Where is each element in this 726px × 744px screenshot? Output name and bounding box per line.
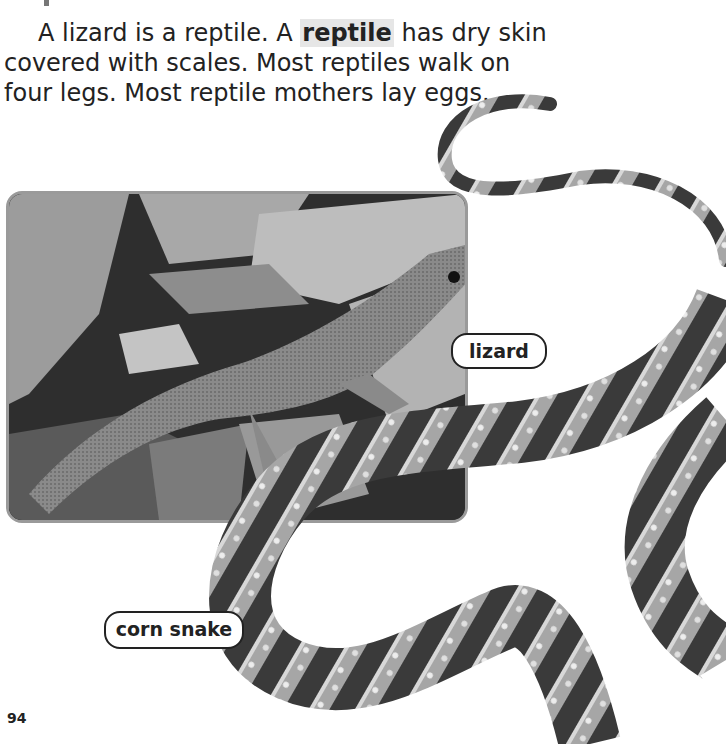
lizard-label: lizard (451, 333, 547, 369)
top-mark (44, 0, 49, 6)
body-paragraph: A lizard is a reptile. A reptile has dry… (4, 18, 564, 108)
lizard-image-icon (9, 194, 465, 520)
page-number: 94 (7, 710, 26, 726)
text-before-term: A lizard is a reptile. A (38, 19, 300, 47)
lizard-photo (6, 191, 468, 523)
vocabulary-term: reptile (300, 19, 394, 47)
corn-snake-label: corn snake (104, 611, 244, 649)
